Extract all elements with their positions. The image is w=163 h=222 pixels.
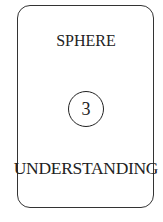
number-circle: 3 bbox=[68, 91, 104, 127]
card-title: SPHERE bbox=[0, 32, 163, 50]
card-label: UNDERSTANDING bbox=[0, 158, 163, 179]
card-number: 3 bbox=[82, 99, 91, 120]
